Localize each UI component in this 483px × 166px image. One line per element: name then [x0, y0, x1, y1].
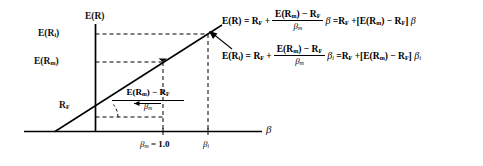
- line-eq-lhs-sub: F: [259, 20, 263, 26]
- line-eq-num-sub2: F: [317, 13, 321, 19]
- sec-eq-fraction: E(Rm) − RFβm: [274, 45, 325, 68]
- sec-eq-rhs-beta-group: βi: [414, 51, 421, 62]
- slope-num-sub2: F: [166, 91, 170, 97]
- line-eq-frac-num: E(Rm) − RF: [272, 10, 323, 22]
- line-equation: E(R) = RF +E(Rm) − RFβmβ =RF +[E(Rm) − R…: [222, 10, 416, 33]
- x-tick-beta-m-sub: m: [144, 143, 148, 149]
- line-eq-lhs: E(R) = R: [222, 16, 259, 26]
- sec-eq-num-mid: ) − R: [298, 44, 318, 54]
- y-tick-label-rf: RF: [59, 101, 70, 111]
- line-eq-rhs-beta: β: [411, 16, 416, 26]
- y-tick-e-rm-main: E(R: [34, 56, 50, 66]
- line-eq-rhs-sub: F: [345, 20, 349, 26]
- line-eq-num-mid: ) − R: [297, 9, 317, 19]
- sec-eq-rhs-group: RF: [342, 52, 353, 62]
- sec-eq-lhs-group: E(Ri) = RF: [222, 52, 264, 62]
- sec-eq-rhs-sub: F: [349, 55, 353, 61]
- x-tick-beta-m-value: = 1.0: [151, 139, 170, 149]
- x-tick-label-beta-m: βm = 1.0: [140, 140, 170, 150]
- sec-eq-plus: +: [266, 52, 271, 62]
- y-tick-rf-main: R: [59, 100, 66, 110]
- sec-eq-bracket-mid: ) − R: [385, 51, 405, 61]
- security-market-line: [55, 25, 222, 132]
- y-tick-label-e-rm: E(Rm): [34, 57, 59, 67]
- sec-eq-frac-den: βm: [274, 56, 325, 67]
- line-eq-bracket-open: [E(R: [357, 16, 377, 26]
- slope-annotation: E(Rm) − RF βm: [112, 88, 184, 112]
- x-tick-beta-i-sub: i: [207, 143, 209, 149]
- y-tick-label-e-ri: E(Ri): [38, 29, 59, 39]
- y-tick-rf-sub: F: [66, 104, 70, 110]
- line-eq-bracket-mid: ) − R: [381, 16, 401, 26]
- equation-pointer-head: [209, 31, 218, 39]
- y-axis-title: E(R): [85, 12, 105, 22]
- sec-eq-beta-mult-sub: i: [332, 54, 334, 61]
- line-eq-beta-mult: β: [325, 16, 330, 26]
- sec-eq-rhs-beta-sub: i: [419, 54, 421, 61]
- sml-figure: E(R) β E(Ri) E(Rm) RF E(Rm) − RF βm βm =…: [0, 0, 483, 166]
- x-axis-title: β: [266, 124, 271, 135]
- slope-num-mid: ) − R: [147, 87, 166, 97]
- sec-eq-lhs: E(R: [222, 51, 238, 61]
- line-eq-bracket-close: ]: [405, 16, 408, 26]
- slope-numerator: E(Rm) − RF: [112, 88, 184, 101]
- sec-eq-den-sub: m: [300, 60, 304, 66]
- line-eq-num-prefix: E(R: [275, 9, 291, 19]
- y-tick-e-rm-close: ): [55, 56, 58, 66]
- security-equation: E(Ri) = RF +E(Rm) − RFβmβi =RF +[E(Rm) −…: [222, 45, 421, 68]
- sec-eq-lhs-close: ) = R: [240, 51, 260, 61]
- line-eq-bracket-group: [E(Rm) − RF]: [357, 17, 409, 27]
- sec-eq-frac-num: E(Rm) − RF: [274, 45, 325, 57]
- sec-eq-bracket-open: [E(R: [360, 51, 380, 61]
- sec-eq-bracket-group: [E(Rm) − RF]: [360, 52, 412, 62]
- slope-den-sub: m: [148, 105, 152, 111]
- y-tick-e-ri-main: E(R: [38, 28, 54, 38]
- line-eq-frac-den: βm: [272, 21, 323, 32]
- x-tick-label-beta-i: βi: [203, 140, 209, 150]
- sec-eq-lhs-sub2: F: [260, 55, 264, 61]
- line-eq-lhs-group: E(R) = RF: [222, 17, 262, 27]
- line-eq-den-sub: m: [298, 25, 302, 31]
- sec-eq-num-sub2: F: [318, 48, 322, 54]
- line-eq-plus: +: [265, 17, 270, 27]
- sec-eq-beta-mult-group: βi: [327, 51, 334, 62]
- slope-num-prefix: E(R: [127, 87, 143, 97]
- sec-eq-num-prefix: E(R: [277, 44, 293, 54]
- y-tick-e-ri-close: ): [56, 28, 59, 38]
- line-eq-fraction: E(Rm) − RFβm: [272, 10, 323, 33]
- sec-eq-rhs: R: [342, 51, 349, 61]
- slope-denominator: βm: [112, 101, 184, 112]
- line-eq-rhs-group: RF: [338, 17, 349, 27]
- sec-eq-bracket-close: ]: [409, 51, 412, 61]
